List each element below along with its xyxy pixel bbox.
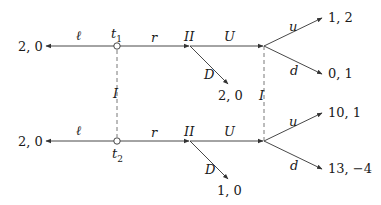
action-bottom-left: ℓ — [76, 124, 81, 137]
action-top-u: u — [289, 20, 297, 33]
player2-label-top: II — [184, 30, 194, 43]
type-label-t1: t1 — [111, 27, 122, 44]
action-bottom-D: D — [205, 163, 215, 176]
player2-label-bottom: II — [184, 125, 194, 138]
action-bottom-U: U — [224, 125, 235, 138]
node-t2 — [114, 138, 120, 144]
payoff-top-down: 0, 1 — [328, 67, 353, 80]
payoff-bottom-down: 13, −4 — [328, 162, 372, 175]
action-top-U: U — [224, 30, 235, 43]
payoff-top-left: 2, 0 — [18, 40, 43, 53]
game-tree-diagram: 2, 0 ℓ t1 r II U D 2, 0 u d 1, 2 0, 1 I … — [0, 0, 381, 205]
action-top-right: r — [151, 31, 157, 44]
payoff-bottom-D: 1, 0 — [217, 184, 242, 197]
action-top-left: ℓ — [76, 29, 81, 42]
action-top-D: D — [204, 68, 214, 81]
action-top-d: d — [290, 64, 298, 77]
node-t1 — [114, 43, 120, 49]
info-set-label-player1: I — [259, 89, 264, 102]
payoff-bottom-up: 10, 1 — [328, 106, 361, 119]
info-set-label-types: I — [113, 87, 118, 100]
type-label-t2: t2 — [112, 147, 123, 164]
action-bottom-d: d — [290, 159, 298, 172]
payoff-top-up: 1, 2 — [328, 11, 353, 24]
payoff-top-D: 2, 0 — [218, 89, 243, 102]
action-bottom-right: r — [151, 126, 157, 139]
payoff-bottom-left: 2, 0 — [18, 135, 43, 148]
action-bottom-u: u — [289, 115, 297, 128]
